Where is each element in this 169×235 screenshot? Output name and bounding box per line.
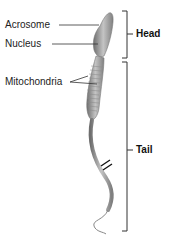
sperm-head (93, 13, 113, 57)
nucleus-label: Nucleus (5, 38, 41, 50)
tail-region-label: Tail (136, 144, 152, 156)
mitochondria-label: Mitochondria (5, 76, 62, 88)
mitochondria-leader-1 (70, 76, 88, 82)
head-region-label: Head (136, 28, 160, 40)
acrosome-label: Acrosome (5, 19, 50, 31)
head-bracket (122, 11, 127, 58)
sperm-tail (91, 120, 112, 210)
tail-bracket (122, 62, 127, 231)
sperm-midpiece (87, 56, 104, 120)
